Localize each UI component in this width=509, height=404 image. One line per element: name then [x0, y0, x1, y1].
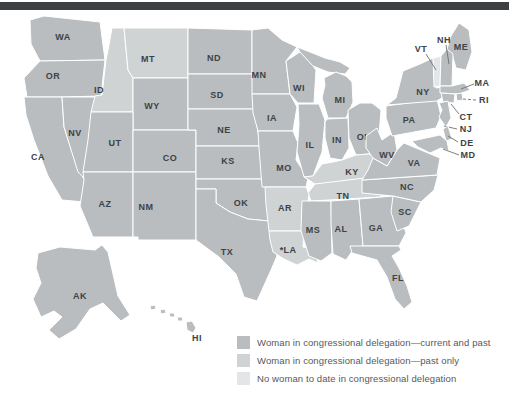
state-label-sd: SD: [210, 90, 223, 100]
leader-line-md: [443, 149, 459, 155]
state-label-tx: TX: [221, 247, 233, 257]
state-label-fl: FL: [392, 273, 404, 283]
state-label-ar: AR: [278, 203, 292, 213]
state-label-ct: CT: [460, 112, 473, 122]
state-label-ut: UT: [109, 138, 122, 148]
legend-swatch-past-only: [237, 354, 250, 367]
state-label-al: AL: [335, 224, 348, 234]
state-label-nj: NJ: [460, 124, 472, 134]
state-label-nv: NV: [68, 128, 81, 138]
state-label-sc: SC: [398, 207, 411, 217]
state-nj: [439, 101, 451, 127]
state-label-wa: WA: [55, 32, 70, 42]
legend-label-past-only: Woman in congressional delegation—past o…: [257, 355, 459, 366]
legend-swatch-current-and-past: [237, 336, 250, 349]
state-label-vt: VT: [415, 44, 427, 54]
state-label-ne: NE: [217, 125, 230, 135]
state-hi: [160, 309, 166, 314]
figure-women-in-congress-map: WAORCANVIDMTWYUTCOAZNMNDSDNEKSOKTXMNIAMO…: [0, 0, 509, 404]
legend-item-none-to-date: No woman to date in congressional delega…: [237, 372, 491, 385]
state-label-ia: IA: [267, 113, 277, 123]
state-label-de: DE: [460, 138, 473, 148]
state-label-or: OR: [46, 71, 60, 81]
state-label-nm: NM: [139, 202, 154, 212]
state-label-ak: AK: [73, 291, 87, 301]
legend-swatch-none-to-date: [237, 372, 250, 385]
state-label-ga: GA: [369, 223, 383, 233]
state-label-pa: PA: [403, 115, 416, 125]
state-label-va: VA: [408, 158, 421, 168]
state-wy: [133, 78, 188, 130]
legend-item-current-and-past: Woman in congressional delegation—curren…: [237, 336, 491, 349]
state-label-ri: RI: [479, 95, 489, 105]
state-label-az: AZ: [99, 199, 112, 209]
leader-line-ri: [463, 99, 476, 100]
state-label-nh: NH: [437, 35, 451, 45]
state-label-mi: MI: [335, 95, 346, 105]
state-label-nd: ND: [207, 53, 221, 63]
legend: Woman in congressional delegation—curren…: [237, 336, 491, 385]
state-label-ny: NY: [416, 87, 429, 97]
state-mt: [124, 28, 188, 78]
state-label-wv: WV: [379, 150, 394, 160]
state-label-hi: HI: [192, 333, 202, 343]
state-hi: [186, 321, 196, 333]
state-label-co: CO: [163, 153, 177, 163]
state-label-nc: NC: [400, 182, 414, 192]
state-label-mo: MO: [276, 163, 291, 173]
state-label-wy: WY: [144, 101, 159, 111]
state-label-me: ME: [454, 42, 468, 52]
state-label-wi: WI: [293, 83, 305, 93]
state-or: [24, 60, 105, 97]
state-nh: [440, 49, 453, 86]
leader-line-ct: [451, 104, 459, 114]
state-hi: [169, 313, 175, 317]
legend-item-past-only: Woman in congressional delegation—past o…: [237, 354, 491, 367]
state-label-id: ID: [94, 85, 104, 95]
state-label-mn: MN: [252, 70, 267, 80]
state-label-md: MD: [461, 150, 476, 160]
legend-label-none-to-date: No woman to date in congressional delega…: [257, 373, 456, 384]
state-co: [133, 130, 196, 172]
state-label-il: IL: [306, 140, 315, 150]
state-hi: [150, 305, 156, 310]
state-label-ky: KY: [345, 167, 358, 177]
state-label-mt: MT: [141, 54, 155, 64]
legend-label-current-and-past: Woman in congressional delegation—curren…: [257, 337, 491, 348]
state-label-in: IN: [332, 135, 342, 145]
state-ri: [456, 93, 463, 101]
state-label-ma: MA: [475, 78, 490, 88]
state-label-ms: MS: [306, 225, 320, 235]
state-nd: [188, 28, 252, 74]
state-label-la: *LA: [280, 245, 297, 255]
state-hi: [177, 317, 183, 321]
state-label-ks: KS: [221, 156, 234, 166]
state-label-ca: CA: [31, 152, 45, 162]
state-label-ok: OK: [234, 198, 248, 208]
